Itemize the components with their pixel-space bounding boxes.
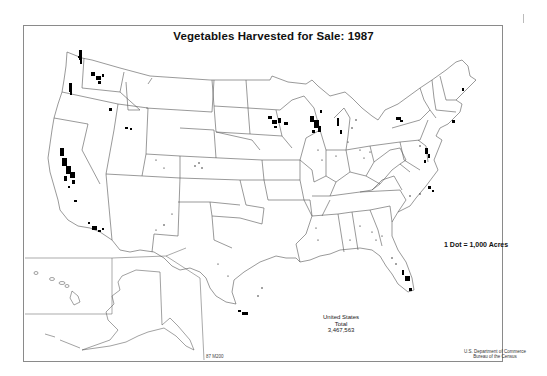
- us-dot-density-map: [0, 0, 547, 376]
- legend-dot-scale: 1 Dot = 1,000 Acres: [444, 241, 508, 248]
- source-credit: U.S. Department of Commerce Bureau of th…: [445, 349, 545, 359]
- alaska-outline: [45, 270, 194, 350]
- total-value: 3,467,563: [305, 327, 377, 334]
- credit-line-2: Bureau of the Census: [445, 354, 545, 359]
- map-code: 87 M200: [206, 354, 224, 359]
- hawaii-islands: [34, 272, 80, 306]
- us-total-label: United States Total 3,467,563: [305, 314, 377, 334]
- inset-boundaries: [25, 248, 204, 360]
